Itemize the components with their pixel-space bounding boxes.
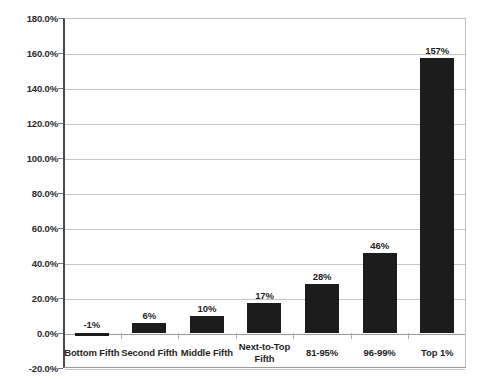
x-axis-category-label: Middle Fifth [178,337,236,368]
bar-group[interactable]: 157% [408,18,466,368]
x-axis-category-label: Next-to-Top Fifth [236,337,294,368]
bar[interactable] [190,316,224,334]
bar[interactable] [132,323,166,334]
bars-layer: -1%6%10%17%28%46%157% [63,18,466,368]
y-axis-tick-label: 120.0% [27,118,58,129]
y-axis-tick-label: 0.0% [37,328,58,339]
bar-value-label: 46% [370,240,389,251]
x-axis-category-label: Top 1% [408,337,466,368]
bar-group[interactable]: -1% [63,18,121,368]
bar-group[interactable]: 17% [236,18,294,368]
bar-value-label: 10% [198,303,217,314]
bar-value-label: -1% [83,319,100,330]
y-axis-tick-label: 20.0% [32,293,58,304]
x-axis-category-label: Bottom Fifth [63,337,121,368]
bar[interactable] [363,253,397,334]
y-axis-tick-label: 100.0% [27,153,58,164]
y-axis-tick-label: 60.0% [32,223,58,234]
bar-value-label: 17% [255,290,274,301]
bar-value-label: 6% [143,310,157,321]
bar-value-label: 28% [313,271,332,282]
x-axis-categories: Bottom FifthSecond FifthMiddle FifthNext… [63,337,466,368]
bar[interactable] [305,284,339,333]
x-axis-category-label: Second Fifth [121,337,179,368]
bar-group[interactable]: 6% [121,18,179,368]
y-axis-tick-label: 140.0% [27,83,58,94]
bar-group[interactable]: 10% [178,18,236,368]
bar-value-label: 157% [425,45,449,56]
bar[interactable] [247,303,281,333]
x-axis-category-label: 81-95% [293,337,351,368]
bar-group[interactable]: 28% [293,18,351,368]
y-axis-tick-label: 80.0% [32,188,58,199]
y-axis-tick-label: 40.0% [32,258,58,269]
bar[interactable] [420,58,454,333]
x-axis-category-label: 96-99% [351,337,409,368]
y-axis-tick-label: 180.0% [27,13,58,24]
y-axis-tick-label: 160.0% [27,48,58,59]
bar-group[interactable]: 46% [351,18,409,368]
y-axis-tick-label: -20.0% [29,363,58,374]
y-axis-tick [58,368,63,369]
bar[interactable] [75,333,109,336]
bar-chart: 180.0%160.0%140.0%120.0%100.0%80.0%60.0%… [0,0,489,390]
